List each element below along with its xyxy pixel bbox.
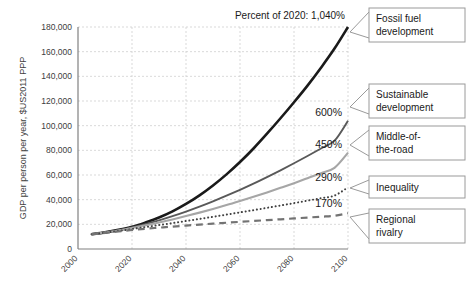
x-tick-label: 2040 — [167, 253, 188, 274]
y-tick-label: 20,000 — [46, 219, 72, 229]
y-tick-label: 80,000 — [46, 145, 72, 155]
percent-of-2020-annotation: Percent of 2020: 1,040% — [235, 10, 345, 21]
x-tick-label: 2000 — [59, 253, 80, 274]
y-tick-label: 180,000 — [41, 22, 72, 32]
x-axis-ticks: 200020202040206020802100 — [59, 253, 350, 274]
percent-label-sustainable-development: 600% — [315, 106, 342, 118]
y-tick-label: 100,000 — [41, 121, 72, 131]
percent-label-regional-rivalry: 170% — [315, 197, 342, 209]
callout-label: development — [376, 26, 433, 37]
gridlines — [78, 27, 348, 249]
percent-label-inequality: 290% — [315, 171, 342, 183]
callout-label: development — [376, 102, 433, 113]
callout-label: the-road — [376, 144, 413, 155]
percent-label-middle-of-the-road: 450% — [315, 138, 342, 150]
callout-label: Fossil fuel — [376, 13, 421, 24]
callout-leader-line — [350, 213, 369, 239]
callout-leader-line — [350, 88, 369, 114]
callout-leader-line — [350, 12, 369, 38]
callout-labels: Fossil fueldevelopmentSustainabledevelop… — [350, 8, 465, 243]
callout-label: Middle-of- — [376, 131, 420, 142]
gdp-projection-chart: 020,00040,00060,00080,000100,000120,0001… — [0, 0, 471, 299]
callout-label: Inequality — [376, 182, 419, 193]
callout-leader-line — [350, 130, 369, 156]
y-axis-ticks: 020,00040,00060,00080,000100,000120,0001… — [41, 22, 72, 254]
chart-container: 020,00040,00060,00080,000100,000120,0001… — [0, 0, 471, 299]
axes — [78, 27, 348, 249]
x-tick-label: 2080 — [275, 253, 296, 274]
x-tick-label: 2100 — [329, 253, 350, 274]
y-tick-label: 0 — [67, 244, 72, 254]
x-tick-label: 2060 — [221, 253, 242, 274]
series-line-fossil-fuel-development — [92, 27, 349, 234]
y-tick-label: 40,000 — [46, 195, 72, 205]
y-tick-label: 140,000 — [41, 71, 72, 81]
callout-label: Sustainable — [376, 89, 429, 100]
callout-label: Regional — [376, 214, 415, 225]
y-tick-label: 160,000 — [41, 47, 72, 57]
y-tick-label: 120,000 — [41, 96, 72, 106]
callout-leader-line — [350, 180, 369, 194]
y-tick-label: 60,000 — [46, 170, 72, 180]
x-tick-label: 2020 — [113, 253, 134, 274]
y-axis-title: GDP per person per year, $US2011 PPP — [18, 57, 28, 219]
series-line-middle-of-the-road — [92, 153, 349, 234]
callout-label: rivalry — [376, 227, 403, 238]
series-lines — [92, 27, 349, 234]
